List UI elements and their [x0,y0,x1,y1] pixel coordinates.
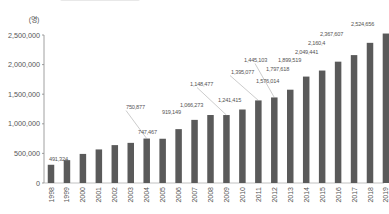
x-tick-label: 1999 [63,187,70,203]
bar-2005 [159,139,166,183]
data-label-2018: 2,367,607 [320,31,343,37]
data-label-2012: 1,445,103 [244,57,267,63]
bar-1998 [48,165,55,183]
bar-2003 [128,143,135,183]
x-tick-label: 2016 [335,187,342,203]
x-tick-label: 2001 [95,187,102,203]
bar-2009 [223,115,230,183]
data-label-2007: 919,149 [162,109,181,115]
data-label-2008: 1,066,273 [180,102,203,108]
y-tick-label: 0 [36,179,40,188]
x-tick-label: 2002 [111,187,118,203]
y-tick-label: 1,000,000 [8,119,40,128]
bar-1999 [64,160,70,183]
data-label-2013: 1,576,014 [256,78,279,84]
x-tick-label: 2017 [351,187,358,203]
y-tick-label: 500,000 [14,149,40,158]
x-tick-label: 2000 [79,187,86,203]
data-label-2009: 1,148,477 [190,81,213,87]
x-tick-label: 2012 [271,187,278,203]
x-tick-label: 2013 [287,187,294,203]
y-tick-label: 1,500,000 [8,90,40,99]
data-label-1998: 491,324 [49,156,68,162]
data-label-2014: 1,797,618 [266,66,289,72]
bar-2004 [143,139,150,183]
bar-2012 [271,97,278,183]
x-tick-label: 1998 [48,187,55,203]
bar-2010 [239,110,246,183]
x-tick-label: 2004 [143,187,150,203]
bar-2006 [175,129,182,183]
x-tick-label: 2008 [207,187,214,203]
bar-2016 [335,62,342,183]
data-label-2015: 1,899,519 [278,57,301,63]
y-tick-label: 2,000,000 [8,60,40,69]
bar-2000 [80,154,87,183]
bar-2019 [383,34,389,183]
x-tick-label: 2011 [255,187,262,202]
bar-2017 [351,55,358,183]
y-axis-unit-label: (명) [29,15,40,24]
x-tick-label: 2015 [319,187,326,203]
bar-2014 [303,77,310,183]
bar-2013 [287,90,294,183]
x-tick-label: 2014 [303,187,310,203]
data-label-2010: 1,241,415 [218,97,241,103]
bar-2007 [191,120,198,183]
bar-2001 [96,149,103,183]
data-label-2019: 2,524,656 [351,21,374,27]
x-tick-label: 2006 [175,187,182,203]
x-tick-label: 2005 [159,187,166,203]
bar-2002 [112,145,119,183]
bar-2008 [207,115,214,183]
x-tick-label: 2018 [367,187,374,203]
y-tick-label: 2,500,000 [8,31,40,40]
x-tick-label: 2009 [223,187,230,203]
data-label-2016: 2,049,441 [295,49,318,55]
x-tick-label: 2019 [382,187,389,203]
bar-2011 [255,100,262,183]
x-tick-label: 2003 [127,187,134,203]
x-tick-label: 2010 [239,187,246,203]
data-label-2017: 2,160,4 [308,40,325,46]
data-label-2005: 747,467 [138,129,157,135]
data-label-2011: 1,395,077 [231,69,254,75]
data-label-2004: 750,877 [126,104,145,110]
bar-chart: (명)0500,0001,000,0001,500,0002,000,0002,… [0,0,389,214]
bar-2018 [367,43,374,183]
x-tick-label: 2007 [191,187,198,203]
bar-2015 [319,71,326,183]
